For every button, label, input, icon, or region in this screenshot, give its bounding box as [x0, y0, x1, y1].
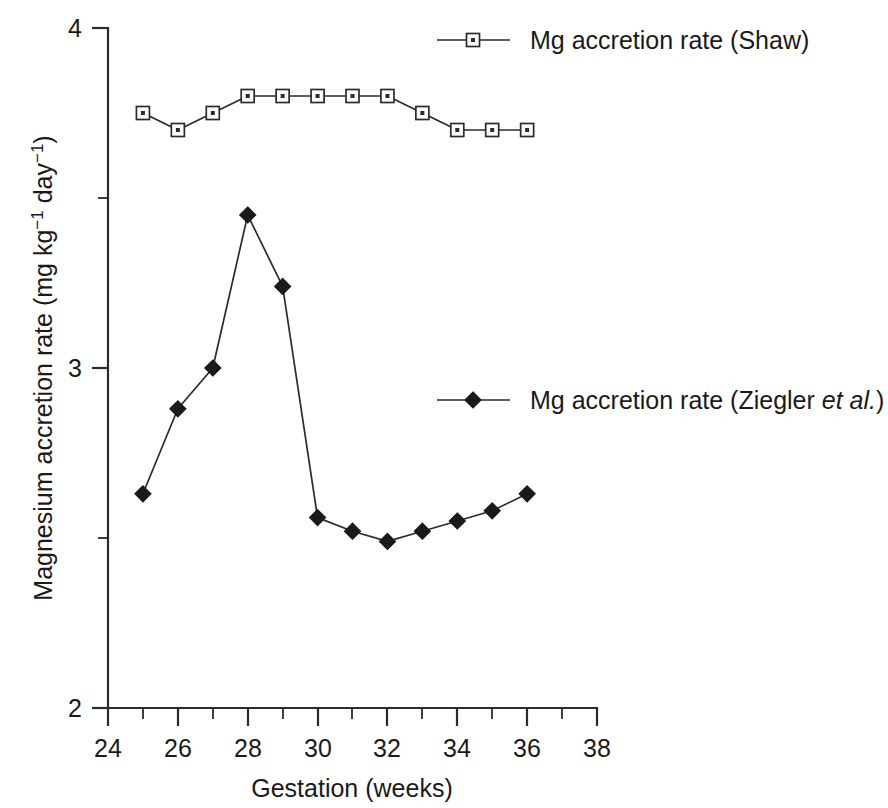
x-tick-label-26: 26 [164, 734, 192, 762]
marker-square-center-dot [420, 111, 424, 115]
y-axis-title-mid: day [29, 163, 57, 211]
y-axis-title-lead: Magnesium accretion rate (mg kg [29, 230, 57, 601]
y-tick-label-3: 3 [68, 354, 82, 382]
marker-square-center-dot [455, 128, 459, 132]
data-point[interactable] [311, 90, 324, 103]
x-tick-label-28: 28 [234, 734, 262, 762]
y-tick-label-2: 2 [68, 694, 82, 722]
chart-figure: 4 3 2 24 26 28 30 32 34 36 38 Gestation … [0, 0, 888, 808]
data-point[interactable] [171, 124, 184, 137]
data-point[interactable] [241, 90, 254, 103]
marker-square-center-dot [141, 111, 145, 115]
y-tick-label-4: 4 [68, 14, 82, 42]
data-point[interactable] [381, 90, 394, 103]
data-point[interactable] [416, 107, 429, 120]
marker-square-center-dot [316, 94, 320, 98]
data-point[interactable] [276, 90, 289, 103]
x-tick-label-36: 36 [513, 734, 541, 762]
y-axis-title-sup1: −1 [28, 210, 47, 229]
marker-square-center-dot [281, 94, 285, 98]
svg-text:Magnesium accretion rate (mg k: Magnesium accretion rate (mg kg−1 day−1) [28, 135, 57, 600]
marker-square-center-dot [176, 128, 180, 132]
y-axis-title-sup2: −1 [28, 144, 47, 163]
legend-label-ziegler-plain: Mg accretion rate (Ziegler [530, 386, 822, 414]
marker-square-center-dot [351, 94, 355, 98]
legend-label-ziegler-tail: ) [876, 386, 884, 414]
x-tick-label-38: 38 [583, 734, 611, 762]
legend-marker-open-square [467, 34, 480, 47]
x-tick-label-34: 34 [443, 734, 471, 762]
x-tick-label-30: 30 [304, 734, 332, 762]
marker-square-center-dot [490, 128, 494, 132]
marker-square-center-dot [385, 94, 389, 98]
x-axis-title: Gestation (weeks) [251, 774, 452, 802]
marker-square-center-dot [525, 128, 529, 132]
legend-label-ziegler-italic: et al. [822, 386, 876, 414]
data-point[interactable] [136, 107, 149, 120]
data-point[interactable] [486, 124, 499, 137]
x-tick-label-32: 32 [373, 734, 401, 762]
data-point[interactable] [206, 107, 219, 120]
data-point[interactable] [521, 124, 534, 137]
x-tick-label-24: 24 [94, 734, 122, 762]
data-point[interactable] [346, 90, 359, 103]
marker-square-center-dot [246, 94, 250, 98]
y-axis-title: Magnesium accretion rate (mg kg−1 day−1) [28, 135, 57, 600]
legend-label-shaw: Mg accretion rate (Shaw) [530, 26, 809, 54]
marker-square-center-dot [211, 111, 215, 115]
legend-label-ziegler: Mg accretion rate (Ziegler et al.) [530, 386, 884, 414]
data-point[interactable] [451, 124, 464, 137]
y-axis-title-tail: ) [29, 135, 57, 143]
